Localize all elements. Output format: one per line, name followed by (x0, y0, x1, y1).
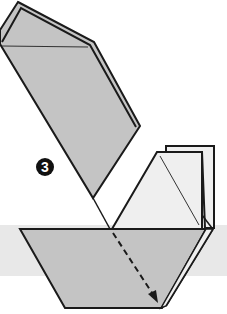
origami-diagram (0, 0, 227, 314)
white-triangle-flap (112, 152, 202, 229)
boat-base (20, 229, 206, 308)
upper-flap-back-layer (0, 2, 140, 198)
step-number-badge: 3 (36, 158, 54, 176)
flap-guide-line (93, 198, 110, 229)
